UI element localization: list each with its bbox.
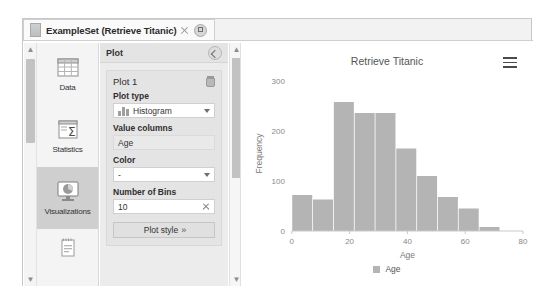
legend-label: Age xyxy=(385,264,400,274)
x-tick-label: 60 xyxy=(461,237,470,246)
scrollbar-thumb[interactable] xyxy=(26,59,35,143)
x-axis-label: Age xyxy=(400,250,415,260)
page-title: ExampleSet (Retrieve Titanic) xyxy=(46,25,177,36)
color-select[interactable]: - xyxy=(113,167,215,182)
plot-panel-scrollbar[interactable]: ▲ ▼ xyxy=(229,43,241,286)
plot-type-value: Histogram xyxy=(133,106,172,116)
x-tick-label: 20 xyxy=(345,237,354,246)
sidebar-item-statistics[interactable]: Σ Statistics xyxy=(37,105,98,167)
chevron-down-icon xyxy=(204,109,210,113)
annotations-icon xyxy=(55,237,81,261)
histogram-bar[interactable] xyxy=(292,195,312,231)
view-sidebar: Data Σ Statistics xyxy=(37,43,99,286)
collapse-icon[interactable] xyxy=(208,46,222,60)
plot-config-panel: Plot Plot 1 Plot type Histogram Value co… xyxy=(100,43,228,286)
histogram-bar[interactable] xyxy=(334,102,354,231)
plot-style-button[interactable]: Plot style » xyxy=(113,222,215,238)
sidebar-item-data[interactable]: Data xyxy=(37,43,98,105)
svg-text:Σ: Σ xyxy=(68,125,76,139)
y-tick-label: 100 xyxy=(272,177,286,186)
x-tick-label: 80 xyxy=(519,237,528,246)
plot-panel-title: Plot xyxy=(106,48,123,58)
results-window: ExampleSet (Retrieve Titanic) ▲ ▼ xyxy=(22,18,532,286)
color-value: - xyxy=(118,170,121,180)
plot-type-label: Plot type xyxy=(113,91,215,101)
bins-input[interactable]: 10 xyxy=(113,199,215,214)
y-axis-label: Frequency xyxy=(254,133,264,174)
plot-card: Plot 1 Plot type Histogram Value columns… xyxy=(106,70,222,246)
histogram-bar[interactable] xyxy=(355,113,375,231)
sidebar-item-annotations[interactable] xyxy=(37,229,98,281)
plot-style-label: Plot style xyxy=(144,225,179,235)
plot-name-label: Plot 1 xyxy=(113,76,137,87)
histogram-bar[interactable] xyxy=(480,227,500,231)
histogram-bar[interactable] xyxy=(396,149,416,232)
chevron-up-icon[interactable]: ▲ xyxy=(24,43,37,56)
bins-value: 10 xyxy=(118,202,127,212)
bins-label: Number of Bins xyxy=(113,187,215,197)
sidebar-item-visualizations[interactable]: Visualizations xyxy=(37,167,98,229)
sidebar-item-label: Statistics xyxy=(52,145,82,154)
y-tick-label: 300 xyxy=(272,77,286,86)
plot-card-header: Plot 1 xyxy=(113,76,215,87)
legend-swatch xyxy=(373,266,380,273)
histogram-bar[interactable] xyxy=(313,200,333,232)
table-grid-icon xyxy=(55,56,81,80)
histogram-bar[interactable] xyxy=(375,113,395,231)
y-tick-label: 200 xyxy=(272,127,286,136)
close-icon[interactable] xyxy=(180,26,189,35)
plot-type-select[interactable]: Histogram xyxy=(113,103,215,118)
clear-icon[interactable] xyxy=(202,203,210,211)
chevron-down-icon[interactable]: ▼ xyxy=(24,273,37,286)
window-tab[interactable]: ExampleSet (Retrieve Titanic) xyxy=(23,19,215,41)
plot-panel-header: Plot xyxy=(100,43,228,63)
value-columns-field[interactable]: Age xyxy=(113,135,215,150)
y-tick-label: 0 xyxy=(280,227,285,236)
histogram-bar[interactable] xyxy=(417,176,437,231)
scrollbar-thumb[interactable] xyxy=(232,58,240,178)
double-chevron-right-icon: » xyxy=(181,225,184,235)
histogram-icon xyxy=(118,105,129,116)
x-tick-label: 0 xyxy=(290,237,295,246)
value-columns-label: Value columns xyxy=(113,123,215,133)
chart-legend: Age xyxy=(242,264,532,274)
trash-icon[interactable] xyxy=(206,76,215,87)
chart-monitor-icon xyxy=(55,180,81,204)
detach-icon[interactable] xyxy=(194,24,207,37)
window-body: ▲ ▼ Data xyxy=(23,40,533,287)
color-label: Color xyxy=(113,155,215,165)
value-columns-value: Age xyxy=(118,138,133,148)
histogram-bar[interactable] xyxy=(459,209,479,232)
histogram-plot: 0204060800100200300AgeFrequency xyxy=(242,43,532,286)
window-tab-buttons xyxy=(180,24,210,37)
histogram-bar[interactable] xyxy=(438,197,458,231)
chevron-down-icon xyxy=(204,173,210,177)
table-icon xyxy=(30,23,41,37)
sidebar-scrollbar[interactable]: ▲ ▼ xyxy=(24,43,37,286)
sidebar-item-label: Visualizations xyxy=(45,207,91,216)
sigma-icon: Σ xyxy=(55,118,81,142)
sidebar-item-label: Data xyxy=(59,83,75,92)
x-tick-label: 40 xyxy=(403,237,412,246)
chart-panel: Retrieve Titanic 0204060800100200300AgeF… xyxy=(242,43,532,286)
